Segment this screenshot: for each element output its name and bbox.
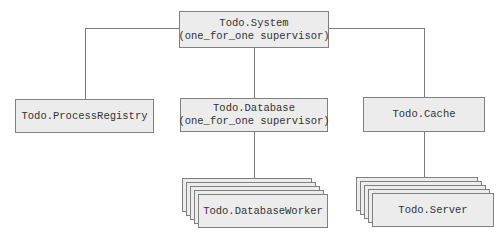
connector-to-database xyxy=(254,47,255,98)
node-subtitle: (one_for_one supervisor) xyxy=(178,115,329,128)
node-todo-process-registry: Todo.ProcessRegistry xyxy=(15,99,154,133)
node-title: Todo.System xyxy=(219,17,288,30)
node-title: Todo.Cache xyxy=(392,108,455,121)
node-todo-database-worker: Todo.DatabaseWorker xyxy=(198,194,328,228)
connector-root-right-horizontal xyxy=(328,28,424,29)
connector-root-left-horizontal xyxy=(85,28,180,29)
connector-database-to-workers xyxy=(254,131,255,178)
connector-cache-to-servers xyxy=(424,132,425,177)
node-subtitle: (one_for_one supervisor) xyxy=(178,30,329,43)
node-todo-database: Todo.Database (one_for_one supervisor) xyxy=(180,98,328,132)
node-title: Todo.DatabaseWorker xyxy=(203,205,323,218)
node-todo-server: Todo.Server xyxy=(372,193,494,227)
node-todo-system: Todo.System (one_for_one supervisor) xyxy=(179,11,329,48)
connector-to-cache xyxy=(424,28,425,97)
node-title: Todo.Database xyxy=(213,102,295,115)
node-title: Todo.Server xyxy=(398,204,467,217)
node-title: Todo.ProcessRegistry xyxy=(21,110,147,123)
node-todo-cache: Todo.Cache xyxy=(363,97,485,132)
connector-to-registry xyxy=(85,28,86,99)
supervision-tree-diagram: Todo.System (one_for_one supervisor) Tod… xyxy=(0,0,504,244)
